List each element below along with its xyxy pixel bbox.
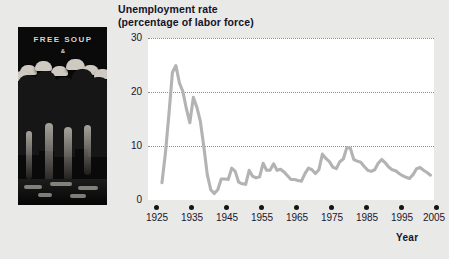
xtick-label-1935: 1935 bbox=[172, 212, 212, 223]
photo-content: FREE SOUP & bbox=[18, 27, 107, 205]
ground-reflection bbox=[24, 185, 42, 189]
ytick-label-0: 0 bbox=[108, 194, 142, 205]
xtick-dot bbox=[154, 205, 159, 210]
free-soup-sign-subtext: & bbox=[32, 46, 94, 56]
hat-icon bbox=[35, 61, 52, 71]
xtick-dot bbox=[189, 205, 194, 210]
x-axis-title: Year bbox=[396, 232, 418, 243]
unemployment-line bbox=[148, 38, 434, 200]
xtick-label-2005: 2005 bbox=[414, 212, 449, 223]
chart-title: Unemployment rate (percentage of labor f… bbox=[118, 3, 368, 28]
coat-highlight bbox=[64, 127, 72, 181]
xtick-dot bbox=[224, 205, 229, 210]
ytick-label-10: 10 bbox=[108, 140, 142, 151]
xtick-label-1925: 1925 bbox=[137, 212, 177, 223]
xtick-label-1965: 1965 bbox=[277, 212, 317, 223]
xtick-label-1975: 1975 bbox=[312, 212, 352, 223]
xtick-label-1955: 1955 bbox=[242, 212, 282, 223]
coat-highlight bbox=[26, 131, 32, 179]
xtick-dot bbox=[259, 205, 264, 210]
ground-reflection bbox=[70, 194, 86, 198]
xtick-dot bbox=[434, 205, 439, 210]
plot-area bbox=[148, 38, 434, 200]
chart-title-line2: (percentage of labor force) bbox=[118, 16, 368, 29]
ytick-label-30: 30 bbox=[108, 32, 142, 43]
xtick-label-1945: 1945 bbox=[207, 212, 247, 223]
chart-title-line1: Unemployment rate bbox=[118, 3, 218, 15]
breadline-photo: FREE SOUP & bbox=[18, 27, 107, 205]
xtick-dot bbox=[329, 205, 334, 210]
xtick-dot bbox=[294, 205, 299, 210]
coat-highlight bbox=[45, 123, 53, 185]
ground-reflection bbox=[78, 186, 98, 190]
ground-reflection bbox=[38, 193, 52, 197]
photo-foreground bbox=[18, 179, 107, 205]
xtick-dot bbox=[364, 205, 369, 210]
ground-reflection bbox=[50, 182, 72, 186]
ytick-label-20: 20 bbox=[108, 86, 142, 97]
free-soup-sign-text: FREE SOUP bbox=[34, 35, 93, 44]
xtick-label-1985: 1985 bbox=[347, 212, 387, 223]
coat-highlight bbox=[84, 125, 91, 175]
xtick-dot bbox=[399, 205, 404, 210]
unemployment-rate-figure: FREE SOUP & bbox=[0, 0, 449, 259]
free-soup-sign: FREE SOUP & bbox=[32, 35, 94, 61]
